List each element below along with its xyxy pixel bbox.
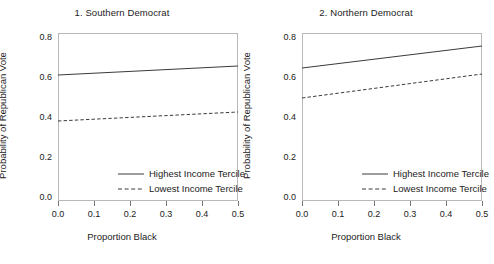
panel-southern-democrat: 1. Southern Democrat Probability of Repu… <box>0 0 244 264</box>
legend: Highest Income Tercile Lowest Income Ter… <box>362 166 484 196</box>
x-tick-label: 0.3 <box>151 209 181 219</box>
x-tick-label: 0.1 <box>79 209 109 219</box>
x-tick-label: 0.0 <box>43 209 73 219</box>
legend-label: Highest Income Tercile <box>393 166 489 181</box>
legend-item-highest: Highest Income Tercile <box>362 166 484 181</box>
legend: Highest Income Tercile Lowest Income Ter… <box>118 166 240 196</box>
x-tick-label: 0.5 <box>467 209 494 219</box>
x-tick-mark <box>410 201 411 206</box>
x-tick-mark <box>482 201 483 206</box>
x-tick-mark <box>374 201 375 206</box>
legend-label: Highest Income Tercile <box>149 166 245 181</box>
x-tick-label: 0.4 <box>187 209 217 219</box>
x-tick-label: 0.3 <box>395 209 425 219</box>
legend-item-highest: Highest Income Tercile <box>118 166 240 181</box>
x-axis-title: Proportion Black <box>244 231 488 242</box>
x-tick-label: 0.0 <box>287 209 317 219</box>
x-tick-mark <box>166 201 167 206</box>
x-tick-label: 0.2 <box>115 209 145 219</box>
x-tick-mark <box>58 201 59 206</box>
x-tick-mark <box>238 201 239 206</box>
x-axis-title: Proportion Black <box>0 231 244 242</box>
series-line <box>58 66 238 75</box>
legend-item-lowest: Lowest Income Tercile <box>118 181 240 196</box>
legend-label: Lowest Income Tercile <box>393 181 487 196</box>
legend-label: Lowest Income Tercile <box>149 181 243 196</box>
legend-item-lowest: Lowest Income Tercile <box>362 181 484 196</box>
series-line <box>58 112 238 121</box>
x-tick-mark <box>94 201 95 206</box>
x-tick-mark <box>446 201 447 206</box>
series-line <box>302 74 482 98</box>
x-tick-label: 0.2 <box>359 209 389 219</box>
x-tick-mark <box>130 201 131 206</box>
panel-northern-democrat: 2. Northern Democrat Probability of Repu… <box>244 0 488 264</box>
x-tick-mark <box>338 201 339 206</box>
x-tick-mark <box>302 201 303 206</box>
x-tick-label: 0.4 <box>431 209 461 219</box>
x-tick-label: 0.1 <box>323 209 353 219</box>
x-tick-mark <box>202 201 203 206</box>
series-line <box>302 46 482 68</box>
